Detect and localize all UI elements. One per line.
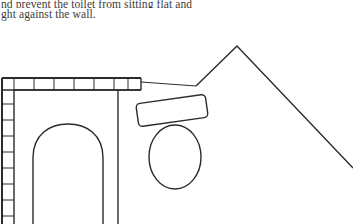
diagram-canvas: [0, 0, 353, 224]
toilet-arch-outline: [33, 124, 103, 224]
toilet-installation-diagram: [0, 0, 353, 224]
hatched-wall-left: [2, 78, 14, 224]
toilet-bowl-ellipse: [149, 125, 201, 189]
scanned-page: nd prevent the toilet from sitting flat …: [0, 0, 353, 224]
hatched-wall-top: [2, 78, 141, 90]
roof-peak-chevron: [196, 46, 353, 168]
tank-lid-rectangle: [136, 94, 209, 127]
wall-edge-line: [141, 82, 196, 86]
